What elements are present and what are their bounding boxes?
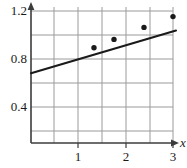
data-points: [91, 14, 175, 51]
x-axis-tick-label-2: 2: [116, 150, 136, 163]
data-point: [91, 45, 96, 50]
chart-container: 1.2 0.8 0.4 1 2 3 x: [0, 0, 187, 168]
scatter-plot-with-fit-line: [0, 0, 187, 168]
x-axis-tick-label-1: 1: [68, 150, 88, 163]
regression-fit-line: [31, 31, 176, 74]
y-axis-tick-label-1-2: 1.2: [0, 4, 27, 17]
data-point: [170, 14, 175, 19]
grid-lines-vertical: [54, 7, 173, 143]
x-axis-tick-label-3: 3: [163, 150, 183, 163]
x-axis-label: x: [180, 136, 186, 149]
data-point: [111, 37, 116, 42]
y-axis-tick-label-0-8: 0.8: [0, 52, 27, 65]
y-axis-tick-label-0-4: 0.4: [0, 100, 27, 113]
data-point: [141, 25, 146, 30]
x-axis: [31, 140, 179, 147]
